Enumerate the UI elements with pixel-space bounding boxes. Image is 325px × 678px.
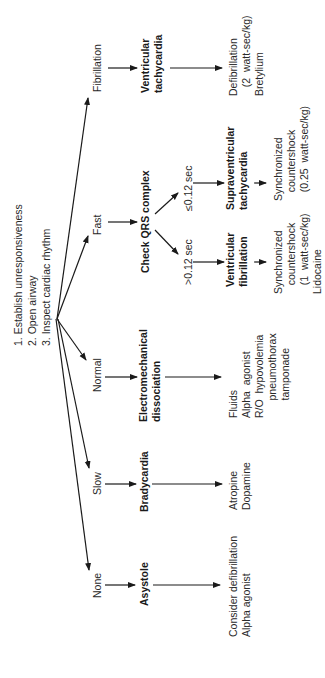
arrow-to-normal [57, 319, 86, 360]
diagnoses: Ventricular tachycardia Supraventricular… [137, 34, 249, 606]
rhythm-labels: Fibrillation Fast Normal Slow None [91, 44, 103, 598]
svg-text:Electromechanical: Electromechanical [137, 329, 149, 422]
treatments: Defibrillation (2 watt-sec/kg) Bretylium… [227, 15, 323, 637]
rhythm-to-diagnosis-arrows [105, 68, 137, 585]
diagnosis-supraventricular-tachycardia: Supraventricular tachycardia [224, 127, 249, 210]
svg-text:tachycardia: tachycardia [152, 34, 164, 93]
rhythm-fan-arrows [56, 98, 89, 570]
check-qrs-complex: Check QRS complex [139, 170, 151, 273]
svg-text:countershock: countershock [285, 222, 297, 294]
treatment-ventricular-fibrillation: Synchronized countershock (1 watt-sec/kg… [272, 213, 323, 294]
svg-text:Consider defibrillation: Consider defibrillation [227, 536, 239, 637]
svg-text:dissociation: dissociation [150, 361, 162, 422]
svg-text:pneumothorax: pneumothorax [266, 333, 278, 418]
svg-text:Fluids: Fluids [227, 390, 239, 418]
rhythm-fibrillation: Fibrillation [91, 44, 103, 92]
step-3: 3. Inspect cardiac rhythm [40, 228, 52, 346]
svg-text:Ventricular: Ventricular [224, 233, 236, 287]
treatment-ventricular-tachycardia: Defibrillation (2 watt-sec/kg) Bretylium [227, 15, 265, 96]
svg-text:Atropine: Atropine [227, 471, 239, 510]
svg-text:countershock: countershock [285, 129, 297, 201]
svg-text:Bretylium: Bretylium [253, 52, 265, 96]
diagnosis-asystole: Asystole [138, 562, 150, 606]
rhythm-none: None [91, 573, 103, 598]
svg-text:R/O hypovolemia: R/O hypovolemia [253, 334, 265, 418]
svg-text:(2 watt-sec/kg): (2 watt-sec/kg) [240, 15, 252, 96]
qrs-narrow-label: ≤0.12 sec [182, 166, 194, 211]
arrow-to-wide-qrs [155, 230, 178, 254]
diagnosis-bradycardia: Bradycardia [138, 451, 150, 512]
svg-text:(0.25 watt-sec/kg): (0.25 watt-sec/kg) [298, 106, 310, 201]
rhythm-normal: Normal [91, 358, 103, 392]
svg-text:(1 watt-sec/kg): (1 watt-sec/kg) [298, 213, 310, 294]
svg-text:Bradycardia: Bradycardia [138, 451, 150, 512]
diagnosis-ventricular-tachycardia: Ventricular tachycardia [139, 34, 164, 93]
arrow-to-narrow-qrs [155, 193, 178, 214]
svg-text:Synchronized: Synchronized [272, 137, 284, 201]
svg-text:Synchronized: Synchronized [272, 230, 284, 294]
treatment-bradycardia: Atropine Dopamine [227, 462, 252, 510]
treatment-supraventricular-tachycardia: Synchronized countershock (0.25 watt-sec… [272, 106, 310, 201]
rhythm-fast: Fast [91, 214, 103, 235]
step-1: 1. Establish unresponsiveness [12, 204, 24, 346]
svg-text:Alpha agonist: Alpha agonist [240, 351, 252, 418]
cardiac-arrest-flowchart: 1. Establish unresponsiveness 2. Open ai… [0, 0, 325, 678]
treatment-asystole: Consider defibrillation Alpha agonist [227, 536, 252, 637]
arrow-to-fast [57, 236, 88, 319]
diagnosis-electromechanical-dissociation: Electromechanical dissociation [137, 329, 162, 422]
svg-text:fibrillation: fibrillation [237, 236, 249, 287]
svg-text:Asystole: Asystole [138, 562, 150, 606]
arrow-to-fibrillation [57, 98, 88, 319]
diagnosis-ventricular-fibrillation: Ventricular fibrillation [224, 233, 249, 287]
svg-text:tachycardia: tachycardia [237, 151, 249, 210]
svg-text:Lidocaine: Lidocaine [311, 249, 323, 294]
svg-text:Defibrillation: Defibrillation [227, 38, 239, 96]
qrs-wide-label: >0.12 sec [182, 239, 194, 285]
step-2: 2. Open airway [26, 275, 38, 346]
treatment-electromechanical-dissociation: Fluids Alpha agonist R/O hypovolemia pne… [227, 333, 291, 418]
svg-text:Dopamine: Dopamine [240, 462, 252, 510]
svg-text:Alpha agonist: Alpha agonist [240, 573, 252, 637]
svg-text:tamponade: tamponade [279, 348, 291, 418]
svg-text:Supraventricular: Supraventricular [224, 127, 236, 210]
svg-text:Ventricular: Ventricular [139, 39, 151, 93]
initial-steps: 1. Establish unresponsiveness 2. Open ai… [12, 204, 52, 346]
rhythm-slow: Slow [91, 472, 103, 495]
